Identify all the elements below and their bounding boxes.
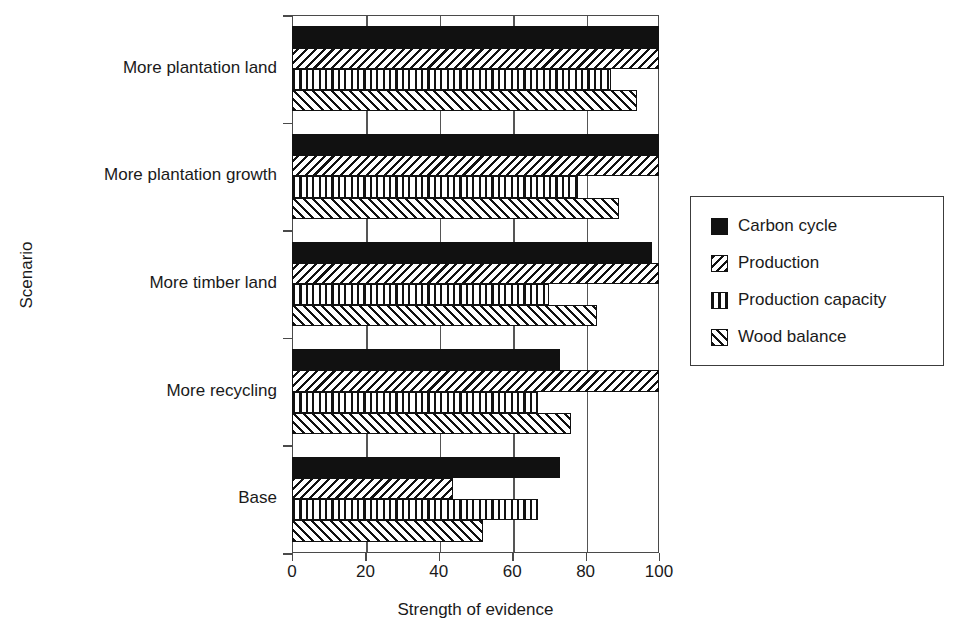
x-tick-0: [292, 553, 293, 561]
x-tick-60: [512, 553, 513, 561]
legend-swatch-icon: [711, 292, 728, 309]
bar: [292, 284, 549, 305]
bar: [292, 413, 571, 434]
bar: [292, 478, 453, 499]
x-tick-label: 20: [330, 562, 400, 582]
y-tick-label: More timber land: [0, 273, 277, 293]
bar: [292, 90, 637, 111]
y-tick: [283, 338, 292, 340]
x-tick-80: [586, 553, 587, 561]
legend-swatch-icon: [711, 255, 728, 272]
x-tick-40: [439, 553, 440, 561]
legend-label: Wood balance: [738, 327, 846, 347]
bar: [292, 48, 659, 69]
bar: [292, 69, 611, 90]
chart-figure: Scenario Strength of evidence 0204060801…: [0, 0, 964, 641]
x-tick-label: 40: [404, 562, 474, 582]
bar: [292, 392, 538, 413]
y-tick-label: Base: [0, 488, 277, 508]
y-tick: [283, 445, 292, 447]
x-axis-title: Strength of evidence: [292, 600, 659, 620]
x-tick-label: 0: [257, 562, 327, 582]
y-tick: [283, 15, 292, 17]
bar: [292, 370, 659, 391]
bar: [292, 242, 652, 263]
y-tick: [283, 123, 292, 125]
x-tick-100: [659, 553, 660, 561]
bar: [292, 26, 659, 47]
bar: [292, 176, 578, 197]
x-tick-20: [365, 553, 366, 561]
bar: [292, 155, 659, 176]
legend-item[interactable]: Carbon cycle: [711, 215, 837, 237]
bar: [292, 349, 560, 370]
bar: [292, 457, 560, 478]
bar: [292, 305, 597, 326]
legend-item[interactable]: Wood balance: [711, 326, 846, 348]
bar: [292, 134, 659, 155]
y-tick-label: More recycling: [0, 381, 277, 401]
legend-item[interactable]: Production: [711, 252, 819, 274]
legend-item[interactable]: Production capacity: [711, 289, 886, 311]
x-tick-label: 80: [551, 562, 621, 582]
y-tick: [283, 230, 292, 232]
x-tick-label: 60: [477, 562, 547, 582]
y-tick-label: More plantation growth: [0, 165, 277, 185]
legend-swatch-icon: [711, 218, 728, 235]
bar: [292, 499, 538, 520]
y-tick-label: More plantation land: [0, 58, 277, 78]
legend: Carbon cycleProductionProduction capacit…: [690, 196, 944, 366]
bar: [292, 520, 483, 541]
x-tick-label: 100: [624, 562, 694, 582]
bar: [292, 198, 619, 219]
y-tick: [283, 553, 292, 555]
bar: [292, 263, 659, 284]
legend-label: Production capacity: [738, 290, 886, 310]
legend-swatch-icon: [711, 329, 728, 346]
legend-label: Production: [738, 253, 819, 273]
legend-label: Carbon cycle: [738, 216, 837, 236]
